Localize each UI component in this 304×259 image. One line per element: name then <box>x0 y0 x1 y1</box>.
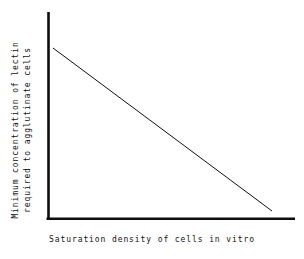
y-axis-title-line-2: required to agglutinate cells <box>22 41 34 218</box>
y-axis-title-line-1: Minimum concentration of lectin <box>10 41 22 218</box>
plot-area <box>0 0 304 259</box>
chart-figure: Minimum concentration of lectin required… <box>0 0 304 259</box>
data-line-series-1 <box>53 48 272 211</box>
chart-svg <box>0 0 304 259</box>
y-axis-title: Minimum concentration of lectin required… <box>0 0 44 259</box>
x-axis-title: Saturation density of cells in vitro <box>0 234 304 245</box>
y-axis-title-rotated: Minimum concentration of lectin required… <box>10 41 34 218</box>
